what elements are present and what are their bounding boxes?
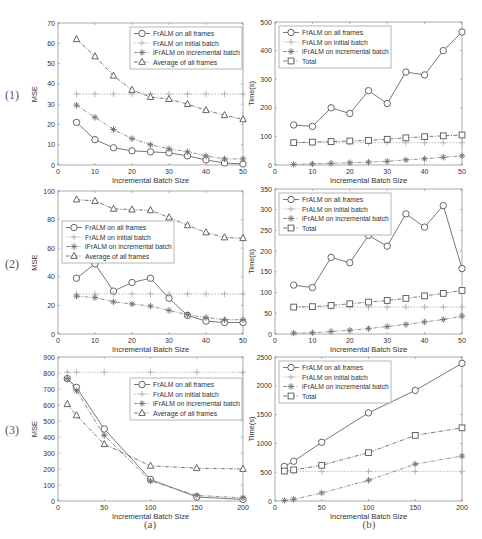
circle-marker [291,282,297,288]
x-axis-label: Incremental Batch Size [112,512,189,521]
y-tick-label: 1500 [256,411,272,418]
x-tick-label: 50 [458,168,466,175]
legend: FrALM on all framesFrALM on initial batc… [279,26,391,68]
chart-2a-mse: 01020304050020406080100Incremental Batch… [30,188,247,355]
legend-entry: iFrALM on incremental batch [302,215,389,222]
circle-marker [384,243,390,249]
square-marker [412,432,418,438]
legend-entry: Total [302,58,317,65]
y-tick-label: 0 [51,498,55,505]
y-tick-label: 600 [43,402,55,409]
y-tick-label: 0 [268,331,272,338]
x-tick-label: 0 [273,168,277,175]
legend-entry: Total [302,393,317,400]
y-tick-label: 2000 [256,382,272,389]
square-marker [328,139,334,145]
y-tick-label: 250 [260,227,272,234]
x-tick-label: 50 [239,337,247,344]
circle-marker [421,224,427,230]
y-tick-label: 40 [47,80,55,87]
x-tick-label: 40 [421,168,429,175]
legend-entry: FrALM on all frames [302,29,364,36]
y-tick-label: 2500 [256,354,272,361]
x-tick-label: 10 [309,168,317,175]
y-tick-label: 100 [43,482,55,489]
x-tick-label: 10 [309,337,317,344]
x-tick-label: 0 [273,337,277,344]
circle-marker [288,364,294,370]
x-tick-label: 10 [91,168,99,175]
circle-marker [403,211,409,217]
square-marker [310,139,316,145]
y-tick-label: 20 [47,302,55,309]
x-tick-label: 30 [165,337,173,344]
square-marker [328,303,334,309]
y-tick-label: 0 [51,331,55,338]
square-marker [366,138,372,144]
legend-entry: FrALM on initial batch [153,40,219,47]
y-tick-label: 1000 [256,440,272,447]
legend-entry: Average of all frames [85,253,150,261]
legend: FrALM on all framesFrALM on initial batc… [130,27,242,69]
square-marker [459,132,465,138]
circle-marker [110,145,116,151]
x-tick-label: 30 [165,168,173,175]
legend-entry: Total [302,225,317,232]
circle-marker [459,360,465,366]
circle-marker [440,202,446,208]
y-tick-label: 500 [260,469,272,476]
square-marker [366,450,372,456]
square-marker [291,467,297,473]
x-tick-label: 50 [318,504,326,511]
x-tick-label: 40 [421,337,429,344]
y-tick-label: 350 [260,186,272,193]
legend-entry: Average of all frames [153,59,218,67]
square-marker [440,133,446,139]
circle-marker [129,279,135,285]
chart-1a-mse: 01020304050010203040506070Incremental Ba… [30,20,247,186]
y-tick-label: 400 [260,47,272,54]
svg-text:(1): (1) [5,88,19,102]
y-axis-label: Time(s) [247,416,256,442]
legend: FrALM on all framesFrALM on initial batc… [279,361,391,403]
legend-entry: iFrALM on incremental batch [85,243,172,250]
x-axis-label: Incremental Batch Size [330,512,407,521]
x-tick-label: 10 [91,337,99,344]
x-tick-label: 20 [128,168,136,175]
square-marker [403,295,409,301]
square-marker [459,288,465,294]
x-axis-label: Incremental Batch Size [330,345,407,354]
x-tick-label: 0 [273,504,277,511]
x-tick-label: 30 [383,168,391,175]
x-axis-label: Incremental Batch Size [112,345,189,354]
circle-marker [291,122,297,128]
legend-entry: iFrALM on incremental batch [153,400,240,407]
legend-entry: Average of all frames [153,410,218,418]
y-tick-label: 20 [47,121,55,128]
circle-marker [365,87,371,93]
legend-entry: FrALM on initial batch [85,234,151,241]
square-marker [288,393,294,399]
circle-marker [288,196,294,202]
y-tick-label: 200 [260,104,272,111]
x-tick-label: 20 [346,168,354,175]
x-tick-label: 50 [239,168,247,175]
square-marker [347,138,353,144]
y-tick-label: 150 [260,268,272,275]
y-tick-label: 100 [43,188,55,195]
x-tick-label: 40 [202,337,210,344]
circle-marker [101,426,107,432]
y-tick-label: 900 [43,354,55,361]
y-tick-label: 0 [268,162,272,169]
y-axis-label: Time(s) [247,248,256,274]
legend-entry: FrALM on initial batch [302,39,368,46]
y-tick-label: 500 [43,418,55,425]
y-tick-label: 10 [47,141,55,148]
y-tick-label: 200 [43,466,55,473]
x-tick-label: 40 [202,168,210,175]
legend-entry: FrALM on initial batch [302,374,368,381]
square-marker [288,58,294,64]
circle-marker [328,254,334,260]
legend-entry: FrALM on initial batch [153,391,219,398]
circle-marker [412,387,418,393]
